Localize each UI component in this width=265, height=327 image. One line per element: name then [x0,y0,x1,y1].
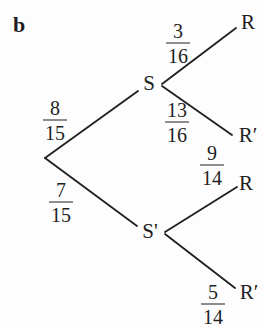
fraction-numerator: 5 [206,282,220,304]
fraction-numerator: 13 [165,100,189,122]
node-s-prime: S' [142,221,157,242]
node-s: S [143,73,155,94]
fraction-denominator: 16 [166,44,190,66]
fraction-denominator: 16 [165,123,189,145]
probability-s-r: 3 16 [166,21,190,66]
probability-s-r-prime: 13 16 [165,100,189,145]
probability-s-prime-r: 9 14 [200,143,224,188]
fraction-numerator: 8 [48,98,62,120]
branch-line-s-prime-r [165,187,237,232]
leaf-r-prime-bottom: R′ [240,282,259,303]
fraction-denominator: 15 [43,121,67,143]
fraction-numerator: 9 [205,143,219,165]
probability-tree-figure: b S S' R R′ R R′ 8 15 7 15 3 16 13 16 9 … [0,0,265,327]
leaf-r-lower: R [239,173,253,194]
probability-start-s-prime: 7 15 [49,180,73,225]
leaf-r-prime-upper: R′ [239,125,258,146]
probability-s-prime-r-prime: 5 14 [201,282,225,327]
fraction-denominator: 14 [200,166,224,188]
fraction-denominator: 15 [49,203,73,225]
fraction-numerator: 7 [54,180,68,202]
leaf-r-top: R [241,12,255,33]
probability-start-s: 8 15 [43,98,67,143]
fraction-numerator: 3 [171,21,185,43]
branch-line-s-prime-r-prime [165,234,235,288]
tree-branch-lines [0,0,265,327]
fraction-denominator: 14 [201,305,225,327]
